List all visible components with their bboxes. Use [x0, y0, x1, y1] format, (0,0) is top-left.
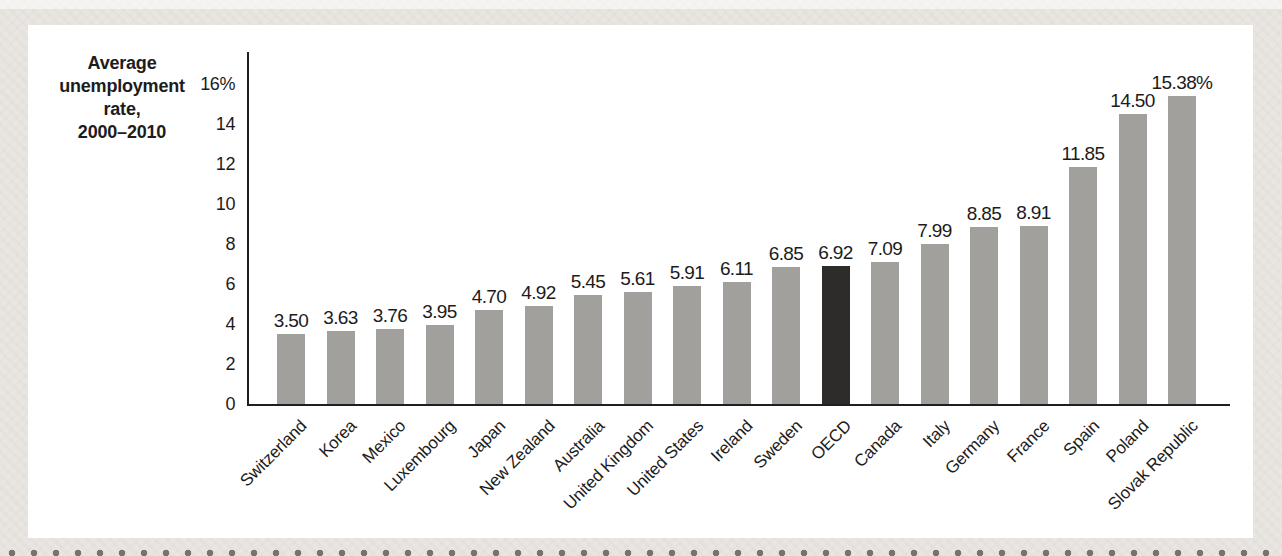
bar — [624, 292, 652, 404]
x-axis-baseline — [247, 404, 1230, 406]
bar-value-label: 15.38% — [1140, 72, 1224, 94]
bar — [1069, 167, 1097, 404]
bar-value-label: 8.91 — [992, 202, 1076, 224]
x-axis-category-label: Japan — [464, 417, 509, 462]
y-axis-tick-label: 10 — [165, 193, 235, 215]
y-axis-tick-label: 0 — [165, 393, 235, 415]
y-axis-line — [247, 52, 249, 406]
bar — [723, 282, 751, 404]
x-axis-category-label: OECD — [808, 417, 855, 464]
x-axis-category-label: Germany — [943, 417, 1004, 478]
x-axis-category-label: United Kingdom — [561, 417, 657, 513]
bar — [525, 306, 553, 404]
y-axis-tick-label: 8 — [165, 233, 235, 255]
y-axis-tick-label: 12 — [165, 153, 235, 175]
x-axis-category-label: Slovak Republic — [1105, 417, 1202, 514]
y-axis-tick-label: 16% — [165, 73, 235, 95]
x-axis-category-label: Switzerland — [237, 417, 310, 490]
bar — [1020, 226, 1048, 404]
chart-area: 0246810121416%3.50Switzerland3.63Korea3.… — [28, 25, 1253, 538]
bar — [970, 227, 998, 404]
bar-value-label: 11.85 — [1041, 143, 1125, 165]
y-axis-tick-label: 6 — [165, 273, 235, 295]
x-axis-category-label: Canada — [851, 417, 905, 471]
page-top-edge — [0, 0, 1282, 9]
bar — [426, 325, 454, 404]
bar — [921, 244, 949, 404]
bar — [376, 329, 404, 404]
chart-panel: Averageunemploymentrate,2000–2010 024681… — [28, 25, 1253, 538]
x-axis-category-label: Spain — [1060, 417, 1103, 460]
y-axis-tick-label: 4 — [165, 313, 235, 335]
bar — [327, 331, 355, 404]
bar — [277, 334, 305, 404]
y-axis-tick-label: 2 — [165, 353, 235, 375]
y-axis-tick-label: 14 — [165, 113, 235, 135]
bar — [574, 295, 602, 404]
x-axis-category-label: France — [1004, 417, 1053, 466]
bar — [772, 267, 800, 404]
bar — [1168, 96, 1196, 404]
bar-oecd-highlighted — [822, 266, 850, 404]
bar — [871, 262, 899, 404]
bar — [1119, 114, 1147, 404]
decorative-dot-row — [2, 546, 1282, 556]
x-axis-category-label: Korea — [316, 417, 360, 461]
x-axis-category-label: Sweden — [750, 417, 805, 472]
x-axis-category-label: Italy — [920, 417, 954, 451]
bar — [673, 286, 701, 404]
bar — [475, 310, 503, 404]
